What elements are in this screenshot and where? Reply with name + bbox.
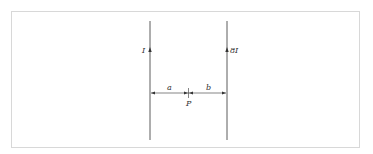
left-current-label: I — [142, 47, 145, 55]
arrowhead-icon — [151, 92, 155, 95]
current-arrow-up-icon — [148, 47, 151, 52]
right-current-label: 8I — [230, 47, 238, 55]
point-p-label: P — [186, 100, 191, 108]
distance-a-label: a — [167, 84, 172, 92]
distance-b-label: b — [206, 84, 211, 92]
arrowhead-icon — [222, 92, 226, 95]
arrowhead-icon — [184, 92, 188, 95]
wires-diagram — [0, 0, 373, 154]
arrowhead-icon — [189, 92, 193, 95]
current-arrow-up-icon — [225, 47, 228, 52]
